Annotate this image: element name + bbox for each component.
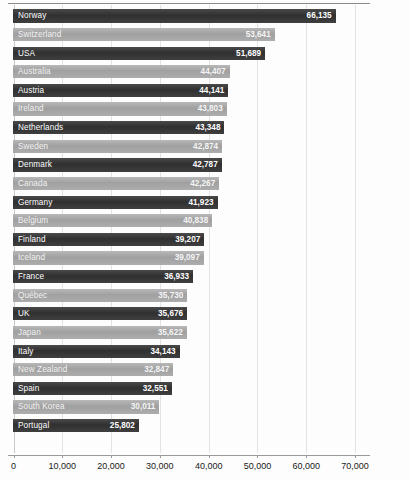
x-tick-mark (14, 455, 15, 458)
bar-category-label: Portugal (18, 419, 49, 432)
bar-category-label: South Korea (18, 400, 65, 413)
x-tick-label: 0 (11, 461, 16, 471)
bar-value-label: 51,689 (236, 47, 261, 60)
bar-category-label: Italy (18, 345, 34, 358)
bar-value-label: 40,838 (183, 214, 208, 227)
bar-category-label: Japan (18, 326, 41, 339)
bar-category-label: Iceland (18, 251, 45, 264)
x-tick-mark (257, 455, 258, 458)
x-tick-mark (111, 455, 112, 458)
bar: Iceland39,097 (13, 251, 204, 264)
bar: Germany41,923 (13, 196, 218, 209)
bar-category-label: Canada (18, 177, 47, 190)
bar-category-label: Switzerland (18, 28, 61, 41)
bar-category-label: USA (18, 47, 35, 60)
bar-category-label: France (18, 270, 44, 283)
bar-value-label: 32,551 (143, 382, 168, 395)
bar-value-label: 43,348 (195, 121, 220, 134)
bar: France36,933 (13, 270, 193, 283)
x-tick-label: 60,000 (292, 461, 320, 471)
x-tick-mark (160, 455, 161, 458)
bar-value-label: 35,676 (158, 307, 183, 320)
bar-value-label: 36,933 (164, 270, 189, 283)
bar-category-label: Austria (18, 84, 44, 97)
bar: Belgium40,838 (13, 214, 212, 227)
x-tick-mark (209, 455, 210, 458)
bar-value-label: 35,730 (158, 289, 183, 302)
bar-category-label: Ireland (18, 102, 44, 115)
bar-category-label: Norway (18, 9, 46, 22)
bar-value-label: 44,141 (199, 84, 224, 97)
x-tick-mark (355, 455, 356, 458)
bar-value-label: 53,641 (246, 28, 271, 41)
bar-value-label: 41,923 (188, 196, 213, 209)
bar-category-label: Sweden (18, 140, 48, 153)
bar-value-label: 30,011 (131, 400, 156, 413)
bar-category-label: Netherlands (18, 121, 63, 134)
bar-value-label: 34,143 (151, 345, 176, 358)
x-tick-mark (62, 455, 63, 458)
bar: Netherlands43,348 (13, 121, 224, 134)
bar: South Korea30,011 (13, 400, 159, 413)
chart-top-rule (8, 3, 370, 4)
x-tick-label: 30,000 (146, 461, 174, 471)
bar: Finland39,207 (13, 233, 204, 246)
bar: UK35,676 (13, 307, 187, 320)
bar-value-label: 44,407 (201, 65, 226, 78)
bar-value-label: 39,207 (175, 233, 200, 246)
bar-category-label: Germany (18, 196, 52, 209)
bar-chart: Norway66,135Switzerland53,641USA51,689Au… (0, 0, 410, 480)
bar-category-label: Australia (18, 65, 51, 78)
bar-category-label: New Zealand (18, 363, 67, 376)
bar: USA51,689 (13, 47, 265, 60)
bar-category-label: Finland (18, 233, 46, 246)
bar: Austria44,141 (13, 84, 228, 97)
bar: Norway66,135 (13, 9, 336, 22)
x-tick-label: 10,000 (49, 461, 77, 471)
bar: Portugal25,802 (13, 419, 139, 432)
bar-value-label: 25,802 (110, 419, 135, 432)
bar: Switzerland53,641 (13, 28, 275, 41)
bar-category-label: Spain (18, 382, 39, 395)
x-tick-label: 40,000 (195, 461, 223, 471)
bar-category-label: Québec (18, 289, 47, 302)
x-tick-label: 50,000 (244, 461, 272, 471)
bar: Sweden42,874 (13, 140, 222, 153)
bar: New Zealand32,847 (13, 363, 173, 376)
bar-value-label: 42,267 (190, 177, 215, 190)
bar-category-label: UK (18, 307, 30, 320)
bar: Québec35,730 (13, 289, 187, 302)
bar: Spain32,551 (13, 382, 172, 395)
x-tick-mark (306, 455, 307, 458)
x-tick-label: 20,000 (97, 461, 125, 471)
bar: Denmark42,787 (13, 158, 222, 171)
bar-value-label: 35,622 (158, 326, 183, 339)
bar-value-label: 42,874 (193, 140, 218, 153)
bar-category-label: Belgium (18, 214, 48, 227)
bar: Japan35,622 (13, 326, 187, 339)
bar-category-label: Denmark (18, 158, 52, 171)
bar-value-label: 66,135 (307, 9, 332, 22)
bar-value-label: 43,803 (198, 102, 223, 115)
x-tick-label: 70,000 (341, 461, 369, 471)
bar: Italy34,143 (13, 345, 180, 358)
bar-rows: Norway66,135Switzerland53,641USA51,689Au… (0, 5, 410, 453)
bar-value-label: 39,097 (175, 251, 200, 264)
bar: Ireland43,803 (13, 102, 227, 115)
bar: Australia44,407 (13, 65, 230, 78)
plot-area: Norway66,135Switzerland53,641USA51,689Au… (0, 5, 410, 453)
bar-value-label: 32,847 (144, 363, 169, 376)
bar-value-label: 42,787 (193, 158, 218, 171)
bar: Canada42,267 (13, 177, 219, 190)
